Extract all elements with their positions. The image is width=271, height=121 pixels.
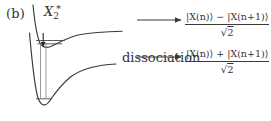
product-state-symmetric: |X(n)⟩ + |X(n+1)⟩ √2	[185, 48, 269, 76]
excited-state-potential-curve	[33, 5, 122, 47]
product-state-antisymmetric: |X(n)⟩ − |X(n+1)⟩ √2	[185, 11, 269, 39]
radicand-value: 2	[227, 27, 233, 38]
antisymmetric-denominator: √2	[185, 25, 269, 39]
antisymmetric-numerator: |X(n)⟩ − |X(n+1)⟩	[185, 11, 269, 25]
potential-energy-dissociation-figure: (b) X2* dissociation |X	[0, 0, 271, 121]
symmetric-numerator: |X(n)⟩ + |X(n+1)⟩	[185, 48, 269, 62]
radicand-value: 2	[227, 64, 233, 75]
symmetric-denominator: √2	[185, 62, 269, 76]
